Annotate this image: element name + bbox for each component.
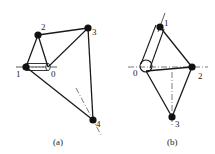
label-1-b: 1 xyxy=(164,18,169,28)
caption-a: (a) xyxy=(53,137,63,147)
link-1-4 xyxy=(26,67,93,120)
link-0-2-b xyxy=(146,67,192,71)
caption-b: (b) xyxy=(167,137,178,147)
joint-2-b xyxy=(188,63,195,70)
label-2-a: 2 xyxy=(41,22,46,32)
joint-1-b xyxy=(156,23,163,30)
label-4-a: 4 xyxy=(96,119,101,129)
label-3-b: 3 xyxy=(175,119,180,129)
link-0-3 xyxy=(48,28,88,67)
link-0-3-b xyxy=(146,71,172,117)
joint-3-a xyxy=(84,24,91,31)
joint-2-a xyxy=(34,31,41,38)
label-0-a: 0 xyxy=(51,69,56,79)
linkage-diagram: 1 0 2 3 4 (a) 0 1 2 3 (b) xyxy=(0,0,215,154)
label-1-a: 1 xyxy=(16,69,21,79)
label-3-a: 3 xyxy=(92,27,97,37)
joint-1-a xyxy=(22,63,29,70)
link-2-3-b xyxy=(172,67,192,117)
figure-a: 1 0 2 3 4 (a) xyxy=(16,22,101,147)
link-1-2-b xyxy=(160,27,192,67)
label-0-b: 0 xyxy=(133,68,138,78)
link-1-2 xyxy=(26,35,38,67)
link-0-2 xyxy=(38,35,48,67)
figure-b: 0 1 2 3 (b) xyxy=(128,13,208,147)
link-3-4 xyxy=(88,28,93,120)
link-2-3 xyxy=(38,28,88,35)
label-2-b: 2 xyxy=(198,71,203,81)
